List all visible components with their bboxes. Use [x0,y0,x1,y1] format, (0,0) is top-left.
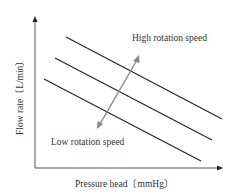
x-axis-label: Pressure head〔mmHg〕 [75,176,174,190]
pump-curve-diagram [0,0,238,195]
y-axis-arrowhead-icon [33,16,38,22]
low-rotation-speed-label: Low rotation speed [51,137,124,147]
speed-change-arrow [100,60,137,124]
arrowhead-down-icon [97,121,103,129]
high-speed-line [66,37,222,119]
y-axis-label: Flow rate〔L/min〕 [12,56,26,135]
x-axis-arrowhead-icon [217,166,223,171]
low-speed-line [44,79,201,161]
high-rotation-speed-label: High rotation speed [132,33,207,43]
arrowhead-up-icon [133,55,140,63]
mid-speed-line [55,58,212,140]
